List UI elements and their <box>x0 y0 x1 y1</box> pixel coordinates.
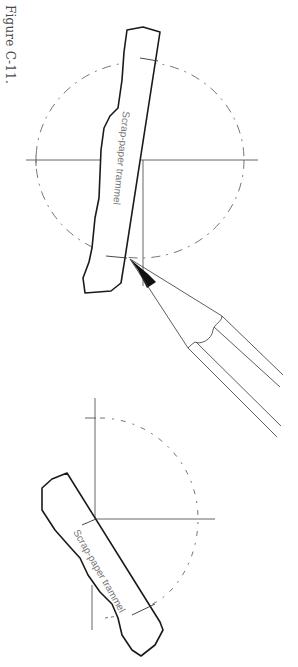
lower-diagram: Scrap-paper trammel <box>42 398 215 656</box>
figure-illustration: Scrap-paper trammel Scrap-paper trammel <box>0 0 298 667</box>
upper-diagram: Scrap-paper trammel <box>26 27 283 437</box>
pencil-icon <box>130 259 283 437</box>
